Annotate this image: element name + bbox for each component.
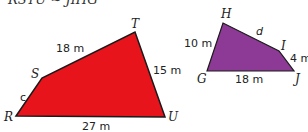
side-rs-label: c — [20, 91, 26, 104]
vertex-i: I — [280, 39, 286, 53]
similarity-statement: RSTU ~ JIHG — [7, 0, 98, 7]
side-hi-label: d — [256, 25, 264, 38]
side-ru-label: 27 m — [82, 120, 110, 132]
side-gh-label: 10 m — [184, 37, 212, 50]
side-st-label: 18 m — [56, 42, 84, 55]
vertex-j: J — [292, 72, 301, 86]
vertex-s: S — [31, 67, 39, 81]
vertex-h: H — [220, 7, 232, 21]
vertex-r: R — [3, 110, 13, 124]
side-ij-label: 4 m — [290, 52, 308, 65]
vertex-t: T — [131, 17, 140, 31]
side-gj-label: 18 m — [235, 73, 263, 86]
side-tu-label: 15 m — [153, 64, 181, 77]
vertex-g: G — [197, 72, 207, 86]
vertex-u: U — [168, 110, 179, 124]
similar-quadrilaterals-diagram: RSTU ~ JIHG R S T U c 18 m 15 m 27 m G H… — [0, 0, 308, 132]
